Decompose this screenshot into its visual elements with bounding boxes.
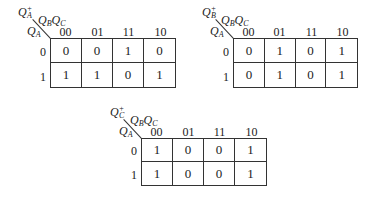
row-header: 1 bbox=[125, 168, 137, 183]
kmap-cell: 0 bbox=[173, 139, 204, 162]
kmap-cell: 0 bbox=[204, 162, 235, 185]
kmap-grid: 1 0 0 1 1 0 0 1 bbox=[141, 138, 267, 186]
kmap-qc-next: Q+C QBQC QA 00 01 11 10 0 1 1 0 0 1 1 0 … bbox=[0, 0, 374, 198]
kmap-cell: 1 bbox=[142, 162, 173, 185]
output-label: Q+C bbox=[110, 104, 124, 120]
kmap-cell: 0 bbox=[204, 139, 235, 162]
kmap-cell: 1 bbox=[235, 162, 266, 185]
kmap-cell: 1 bbox=[142, 139, 173, 162]
row-header: 0 bbox=[125, 144, 137, 159]
kmap-cell: 1 bbox=[235, 139, 266, 162]
kmap-cell: 0 bbox=[173, 162, 204, 185]
